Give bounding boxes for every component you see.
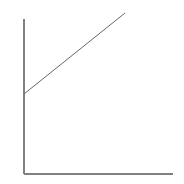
line-chart-figure [0,0,184,184]
chart-canvas [0,0,184,184]
chart-background [0,0,184,184]
